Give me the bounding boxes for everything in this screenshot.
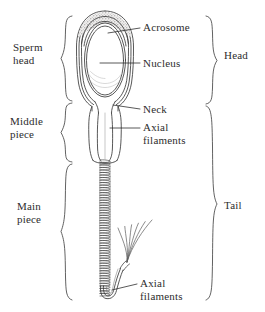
part-label-neck: Neck [143, 103, 167, 116]
part-label-axial-filaments-upper: Axialfilaments [143, 121, 186, 147]
middle-piece-outer-left [89, 107, 93, 161]
leader-axial-low [112, 284, 137, 290]
neck-outline [95, 102, 115, 113]
middle-piece-base [93, 161, 117, 164]
splayed-axial-filaments [118, 220, 152, 262]
tail-coil [100, 160, 110, 296]
middle-piece-outer-right [117, 107, 121, 161]
filament-bundle-neck [120, 261, 130, 271]
region-label-middle-piece: Middlepiece [10, 115, 43, 141]
part-label-axial-filaments-lower: Axialfilaments [140, 277, 183, 303]
brace-middle-piece [61, 103, 72, 162]
sperm-diagram: Spermhead Middlepiece Mainpiece Head Tai… [0, 0, 265, 312]
part-label-acrosome: Acrosome [143, 21, 190, 34]
region-label-head: Head [224, 49, 248, 62]
end-piece-hook-inner [103, 269, 120, 297]
region-label-main-piece: Mainpiece [17, 200, 41, 226]
axial-filament-core-right [109, 113, 113, 161]
brace-main-piece [61, 164, 72, 300]
brace-head [206, 16, 217, 104]
region-label-tail: Tail [224, 199, 242, 212]
part-label-nucleus: Nucleus [143, 57, 180, 70]
brace-tail [206, 106, 217, 300]
nucleus-outline [85, 23, 126, 97]
leader-neck [113, 105, 140, 109]
region-label-sperm-head: Spermhead [13, 41, 43, 67]
brace-sperm-head [61, 16, 72, 101]
axial-filament-core-left [97, 113, 101, 161]
